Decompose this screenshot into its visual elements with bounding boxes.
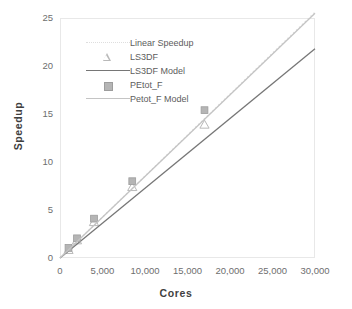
y-axis-title: Speedup	[12, 86, 24, 166]
legend-item-petot-f-model: Petot_F Model	[86, 92, 216, 106]
y-tick-label: 10	[27, 157, 53, 167]
legend-label-petot-f: PEtot_F	[130, 80, 163, 90]
legend-label-ls3df-model: LS3DF Model	[130, 66, 185, 76]
legend-item-petot-f: PEtot_F	[86, 78, 216, 92]
solid-light-line-key-icon	[86, 92, 130, 106]
legend-label-ls3df: LS3DF	[130, 52, 158, 62]
chart-legend: Linear Speedup LS3DF LS3DF Model PEtot_F	[86, 36, 216, 106]
y-tick-label: 25	[27, 13, 53, 23]
legend-item-ls3df: LS3DF	[86, 50, 216, 64]
linear-speedup-key-icon	[86, 36, 130, 50]
legend-item-ls3df-model: LS3DF Model	[86, 64, 216, 78]
y-tick-label: 20	[27, 61, 53, 71]
x-axis-title: Cores	[0, 287, 352, 299]
y-tick-label: 5	[27, 205, 53, 215]
open-triangle-key-icon	[86, 50, 130, 64]
x-tick-label: 30,000	[285, 266, 345, 276]
y-tick-label: 15	[27, 109, 53, 119]
speedup-chart: 0510152025 05,00010,00015,00020,00025,00…	[0, 0, 352, 309]
filled-square-key-icon	[86, 78, 130, 92]
legend-label-petot-f-model: Petot_F Model	[130, 94, 189, 104]
legend-item-linear-speedup: Linear Speedup	[86, 36, 216, 50]
solid-dark-line-key-icon	[86, 64, 130, 78]
legend-label-linear-speedup: Linear Speedup	[130, 38, 194, 48]
y-tick-label: 0	[27, 253, 53, 263]
